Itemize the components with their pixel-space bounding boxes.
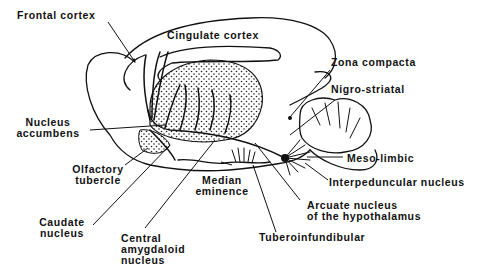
label-tuberoinfundibular: Tuberoinfundibular — [259, 232, 365, 243]
label-central-amygdaloid-nucleus: Central amygdaloid nucleus — [121, 233, 185, 266]
label-frontal-cortex: Frontal cortex — [17, 10, 95, 21]
cerebellum — [300, 98, 372, 153]
label-zona-compacta: Zona compacta — [331, 57, 416, 68]
label-meso-limbic: Meso-limbic — [347, 153, 414, 164]
label-nucleus-accumbens: Nucleus accumbens — [13, 117, 83, 139]
label-nigro-striatal: Nigro-striatal — [331, 84, 405, 95]
cerebellum-folia — [312, 102, 360, 138]
label-cingulate-cortex: Cingulate cortex — [167, 30, 259, 41]
label-interpeduncular-nucleus: Interpeduncular nucleus — [329, 177, 465, 188]
label-olfactory-tubercle: Olfactory tubercle — [66, 164, 130, 186]
label-median-eminence: Median eminence — [191, 175, 253, 197]
label-caudate-nucleus: Caudate nucleus — [34, 217, 90, 239]
label-arcuate-nucleus: Arcuate nucleus of the hypothalamus — [307, 200, 421, 222]
